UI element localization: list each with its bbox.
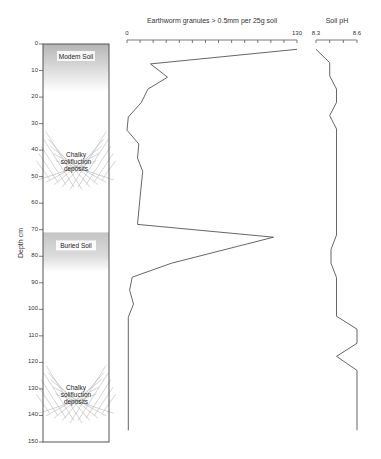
layer-label-chalky-solifluction: solifluction	[61, 158, 92, 165]
y-tick-label: 80	[31, 252, 38, 258]
ph-series-line	[316, 49, 357, 430]
x-tick-label-min: 0	[125, 30, 129, 36]
y-tick-label: 0	[35, 40, 39, 46]
y-tick-label: 100	[28, 305, 39, 311]
y-tick-label: 10	[31, 67, 38, 73]
buried-soil-band	[43, 232, 109, 272]
depth-axis-title: Depth cm	[17, 228, 25, 258]
y-tick-label: 150	[28, 438, 39, 444]
y-tick-label: 20	[31, 93, 38, 99]
x-tick-label-max: 8.6	[353, 30, 362, 36]
granules-axis-title: Earthworm granules > 0.5mm per 25g soil	[147, 17, 278, 25]
hatch-line	[41, 380, 66, 418]
y-tick-label: 140	[28, 411, 39, 417]
x-tick-label-max: 130	[292, 30, 303, 36]
y-tick-label: 50	[31, 173, 38, 179]
stratigraphic-column: Modem SoilChalkysolifluctiondepositsBuri…	[36, 44, 115, 442]
hatch-line	[41, 146, 66, 184]
y-tick-label: 70	[31, 226, 38, 232]
granules-series-line	[127, 49, 297, 430]
y-tick-label: 30	[31, 120, 38, 126]
x-tick-label-min: 8.3	[312, 30, 321, 36]
layer-label-modern-soil: Modem Soil	[59, 53, 94, 60]
y-tick-label: 40	[31, 146, 38, 152]
layer-label-chalky-solifluction: solifluction	[61, 391, 92, 398]
granules-axis: 0130	[125, 30, 302, 43]
y-tick-label: 120	[28, 358, 39, 364]
y-tick-label: 130	[28, 385, 39, 391]
ph-axis: 8.38.6	[312, 30, 362, 43]
y-tick-label: 110	[28, 332, 38, 338]
depth-profile-chart: Earthworm granules > 0.5mm per 25g soil …	[0, 0, 381, 459]
layer-label-chalky-solifluction: deposits	[64, 398, 89, 406]
y-tick-label: 60	[31, 199, 38, 205]
layer-label-buried-soil: Buried Soil	[60, 242, 92, 249]
ph-axis-title: Soil pH	[326, 17, 349, 25]
depth-axis: 0102030405060708090100110120130140150	[28, 40, 43, 444]
hatch-line	[86, 146, 111, 184]
series-lines	[127, 49, 357, 430]
y-tick-label: 90	[31, 279, 38, 285]
hatch-line	[86, 380, 111, 418]
layer-label-chalky-solifluction: deposits	[64, 165, 89, 173]
